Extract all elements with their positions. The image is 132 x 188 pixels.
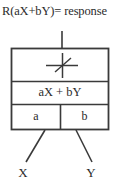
summation-cell-label: aX + bY [11,84,109,101]
gain-a-cell-label: a [12,108,60,125]
input-lead-y [76,130,92,162]
input-lead-x [26,130,45,162]
input-y-label: Y [80,165,102,181]
static-nonlinearity-icon [46,53,78,78]
input-x-label: X [12,165,34,181]
gain-b-cell-label: b [61,108,108,125]
diagram-canvas: R(aX+bY)= response aX + bY a b X Y [0,0,132,188]
